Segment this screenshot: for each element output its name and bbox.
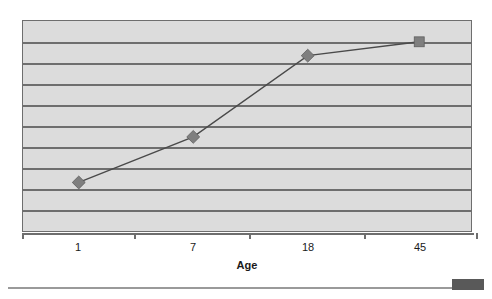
x-axis-tick	[476, 233, 478, 239]
series-line	[79, 42, 419, 183]
x-axis-tick	[134, 233, 136, 239]
x-axis-tick	[22, 233, 24, 239]
series-markers	[72, 37, 424, 189]
x-axis-tick-label: 7	[163, 240, 223, 254]
line-chart-figure: 171845 Age	[0, 0, 492, 299]
data-series-layer	[23, 21, 471, 231]
x-axis-tick-label: 45	[390, 240, 450, 254]
data-point-marker	[301, 49, 314, 62]
data-point-marker	[187, 130, 200, 143]
x-axis-tick	[249, 233, 251, 239]
plot-area	[22, 20, 472, 232]
data-point-marker	[72, 176, 85, 189]
footer-divider	[8, 287, 484, 289]
x-axis-tick-label: 18	[278, 240, 338, 254]
footer-block	[452, 279, 484, 290]
x-axis-line	[22, 233, 474, 235]
x-axis-tick	[364, 233, 366, 239]
x-axis-title: Age	[22, 258, 472, 272]
x-axis-tick-label: 1	[48, 240, 108, 254]
data-point-marker	[414, 37, 424, 47]
